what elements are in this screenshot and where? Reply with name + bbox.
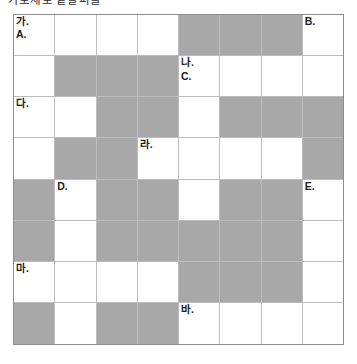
- cell-clue-label-korean: 다.: [16, 97, 29, 110]
- grid-row: D.E.: [14, 180, 343, 221]
- grid-row: 가.A.B.: [14, 15, 343, 56]
- cell-clue-label-latin: D.: [57, 180, 68, 193]
- grid-cell-open[interactable]: [14, 56, 55, 97]
- grid-cell-open[interactable]: 바.: [179, 303, 220, 344]
- grid-cell-open[interactable]: 라.: [138, 138, 179, 179]
- grid-cell-open[interactable]: 마.: [14, 262, 55, 303]
- grid-cell-blocked: [55, 56, 96, 97]
- grid-cell-open[interactable]: 나.C.: [179, 56, 220, 97]
- grid-cell-blocked: [262, 262, 303, 303]
- grid-cell-blocked: [97, 303, 138, 344]
- cell-clue-label-korean: 마.: [16, 262, 29, 275]
- cell-clue-label-latin: E.: [305, 180, 315, 193]
- grid-cell-open[interactable]: [55, 15, 96, 56]
- grid-cell-open[interactable]: D.: [55, 180, 96, 221]
- grid-cell-open[interactable]: 가.A.: [14, 15, 55, 56]
- grid-cell-open[interactable]: [97, 262, 138, 303]
- grid-cell-blocked: [303, 138, 343, 179]
- grid-cell-open[interactable]: [303, 303, 343, 344]
- grid-cell-blocked: [14, 303, 55, 344]
- grid-cell-open[interactable]: [55, 221, 96, 262]
- grid-cell-blocked: [262, 221, 303, 262]
- cell-clue-labels: 나.C.: [181, 56, 194, 83]
- grid-cell-open[interactable]: [55, 97, 96, 138]
- cell-clue-label-korean: 가.: [16, 15, 29, 28]
- grid-cell-blocked: [138, 221, 179, 262]
- grid-cell-blocked: [179, 262, 220, 303]
- grid-cell-blocked: [262, 97, 303, 138]
- grid-cell-blocked: [97, 138, 138, 179]
- grid-cell-blocked: [138, 180, 179, 221]
- grid-cell-blocked: [97, 56, 138, 97]
- grid-cell-open[interactable]: [179, 180, 220, 221]
- grid-cell-open[interactable]: E.: [303, 180, 343, 221]
- grid-cell-blocked: [220, 97, 261, 138]
- cell-clue-label-korean: 나.: [181, 56, 194, 69]
- grid-cell-blocked: [179, 221, 220, 262]
- grid-cell-open[interactable]: [262, 138, 303, 179]
- grid-cell-open[interactable]: [220, 56, 261, 97]
- grid-cell-open[interactable]: [14, 138, 55, 179]
- grid-cell-open[interactable]: B.: [303, 15, 343, 56]
- grid-cell-blocked: [220, 221, 261, 262]
- cell-clue-label-korean: 바.: [181, 303, 194, 316]
- cell-clue-label-korean: 라.: [140, 138, 153, 151]
- cell-clue-labels: D.: [57, 180, 68, 193]
- grid-row: 바.: [14, 303, 343, 344]
- cell-clue-label-latin: B.: [305, 15, 316, 28]
- grid-cell-open[interactable]: [303, 221, 343, 262]
- grid-cell-blocked: [179, 15, 220, 56]
- grid-cell-blocked: [97, 97, 138, 138]
- clipped-heading-text: 가로세로 낱말퍼즐: [8, 0, 101, 7]
- grid-cell-blocked: [97, 180, 138, 221]
- grid-cell-open[interactable]: 다.: [14, 97, 55, 138]
- grid-cell-blocked: [97, 221, 138, 262]
- grid-cell-blocked: [220, 15, 261, 56]
- grid-cell-open[interactable]: [55, 303, 96, 344]
- grid-cell-blocked: [14, 180, 55, 221]
- grid-cell-blocked: [138, 97, 179, 138]
- grid-cell-open[interactable]: [303, 56, 343, 97]
- grid-cell-blocked: [303, 97, 343, 138]
- grid-cell-blocked: [138, 303, 179, 344]
- cell-clue-labels: B.: [305, 15, 316, 28]
- grid-cell-blocked: [55, 138, 96, 179]
- grid-cell-open[interactable]: [138, 262, 179, 303]
- grid-cell-open[interactable]: [97, 15, 138, 56]
- grid-cell-open[interactable]: [179, 97, 220, 138]
- grid-cell-blocked: [138, 56, 179, 97]
- cell-clue-labels: 마.: [16, 262, 29, 275]
- grid-cell-open[interactable]: [220, 303, 261, 344]
- grid-cell-open[interactable]: [303, 262, 343, 303]
- grid-cell-open[interactable]: [138, 15, 179, 56]
- grid-row: 라.: [14, 138, 343, 179]
- grid-row: 나.C.: [14, 56, 343, 97]
- clipped-heading-strip: 가로세로 낱말퍼즐: [0, 0, 357, 13]
- grid-cell-blocked: [220, 180, 261, 221]
- grid-cell-blocked: [220, 262, 261, 303]
- grid-cell-open[interactable]: [220, 138, 261, 179]
- cell-clue-labels: E.: [305, 180, 315, 193]
- grid-row: [14, 221, 343, 262]
- cell-clue-label-latin: C.: [181, 70, 194, 83]
- cell-clue-labels: 다.: [16, 97, 29, 110]
- grid-cell-open[interactable]: [179, 138, 220, 179]
- grid-cell-open[interactable]: [262, 56, 303, 97]
- cell-clue-labels: 라.: [140, 138, 153, 151]
- grid-cell-open[interactable]: [262, 303, 303, 344]
- crossword-grid: 가.A.B.나.C.다.라.D.E.마.바.: [13, 14, 344, 345]
- grid-cell-blocked: [262, 15, 303, 56]
- grid-row: 다.: [14, 97, 343, 138]
- grid-row: 마.: [14, 262, 343, 303]
- cell-clue-label-latin: A.: [16, 28, 29, 41]
- cell-clue-labels: 바.: [181, 303, 194, 316]
- grid-cell-open[interactable]: [55, 262, 96, 303]
- grid-cell-blocked: [14, 221, 55, 262]
- grid-cell-blocked: [262, 180, 303, 221]
- cell-clue-labels: 가.A.: [16, 15, 29, 42]
